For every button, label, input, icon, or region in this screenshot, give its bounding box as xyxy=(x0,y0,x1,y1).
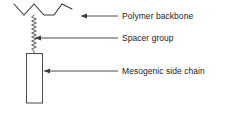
callout-label-polymer-backbone: Polymer backbone xyxy=(122,11,193,21)
callout-label-spacer-group: Spacer group xyxy=(122,33,174,43)
callout-label-mesogenic-side-chain: Mesogenic side chain xyxy=(122,66,205,76)
polymer-structure-graphic xyxy=(0,0,228,115)
diagram-canvas: Polymer backbone Spacer group Mesogenic … xyxy=(0,0,228,115)
polymer-backbone-zigzag-icon xyxy=(14,4,72,15)
spacer-group-coil-icon xyxy=(32,15,37,53)
mesogenic-side-chain-rect-icon xyxy=(27,54,43,104)
